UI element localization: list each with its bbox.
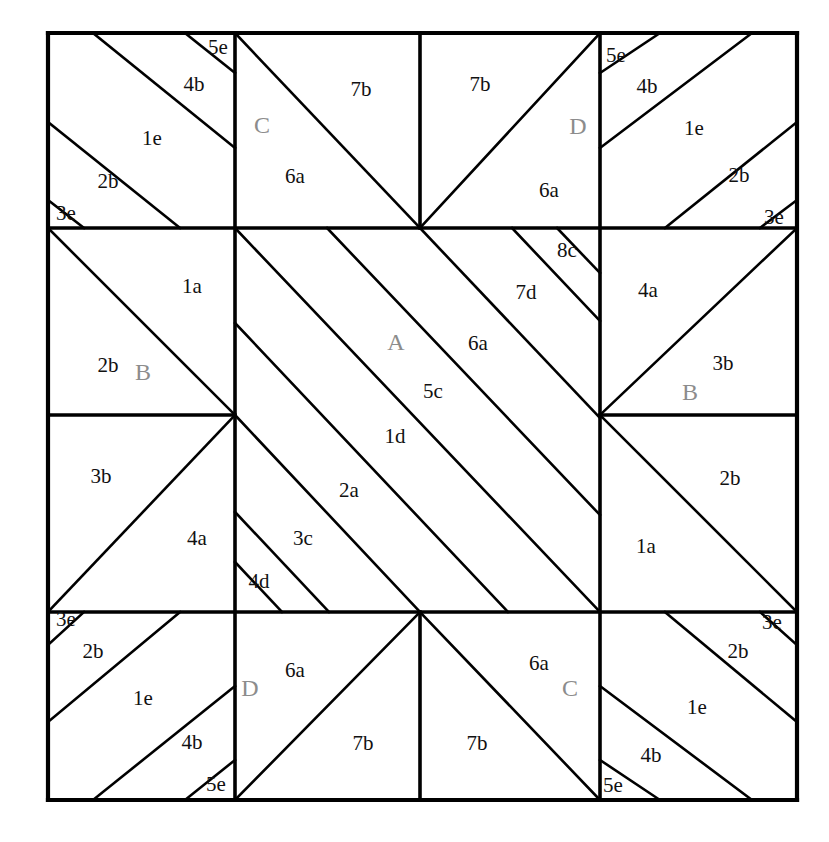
patch-label-tl-2b: 2b — [98, 169, 119, 193]
patch-label-br-5e: 5e — [603, 773, 623, 797]
patch-label-bl-4b: 4b — [182, 730, 203, 754]
patch-label-tr-3e: 3e — [764, 205, 784, 229]
patch-label-br2-6a: 6a — [529, 651, 550, 675]
patch-label-ml-4a: 4a — [187, 526, 208, 550]
patch-label-bl-1e: 1e — [133, 686, 153, 710]
block-label-block-b-right: B — [682, 379, 698, 405]
patch-label-tr2-7b: 7b — [470, 72, 491, 96]
patch-label-ml-3b: 3b — [91, 464, 112, 488]
patch-label-c-4d: 4d — [249, 569, 271, 593]
patch-label-mr-2b: 2b — [720, 466, 741, 490]
patch-label-br-3e: 3e — [762, 610, 782, 634]
patch-label-tr-2b: 2b — [729, 163, 750, 187]
patch-label-c-5c: 5c — [423, 379, 443, 403]
quilt-diagram: 5e4b1e2b3e7b6a7b6a5e4b1e2b3e1a2b3b4a8c7d… — [0, 0, 829, 842]
block-label-block-d-bottom: D — [241, 675, 258, 701]
patch-label-tr-5e: 5e — [606, 43, 626, 67]
block-label-block-c-bottom: C — [562, 675, 578, 701]
patch-label-tr2-6a: 6a — [539, 178, 560, 202]
patch-label-c-2a: 2a — [339, 478, 360, 502]
patch-label-tl-4b: 4b — [184, 72, 205, 96]
block-label-block-b-left: B — [135, 359, 151, 385]
patch-label-tc-7b: 7b — [351, 77, 372, 101]
patch-label-tr-1e: 1e — [684, 116, 704, 140]
patch-label-br-4b: 4b — [641, 743, 662, 767]
block-label-block-d-top: D — [569, 113, 586, 139]
block-label-block-a-center: A — [387, 329, 405, 355]
patch-label-tc-6a: 6a — [285, 164, 306, 188]
patch-label-bc-7b: 7b — [353, 731, 374, 755]
patch-label-ml-2b: 2b — [98, 353, 119, 377]
patch-label-tl-1e: 1e — [142, 126, 162, 150]
patch-label-mr-4a: 4a — [638, 278, 659, 302]
patch-label-br2-7b: 7b — [467, 731, 488, 755]
patch-label-c-1d: 1d — [385, 424, 407, 448]
patch-label-br-1e: 1e — [687, 695, 707, 719]
patch-label-tr-4b: 4b — [637, 74, 658, 98]
patch-label-c-6a: 6a — [468, 331, 489, 355]
patch-label-tl-3e: 3e — [56, 201, 76, 225]
patch-label-bc-6a: 6a — [285, 658, 306, 682]
patch-label-bl-2b: 2b — [83, 639, 104, 663]
patch-label-mr-3b: 3b — [713, 351, 734, 375]
patch-label-ml-1a: 1a — [182, 274, 203, 298]
patch-label-bl-3e: 3e — [56, 607, 76, 631]
quilt-svg-canvas: 5e4b1e2b3e7b6a7b6a5e4b1e2b3e1a2b3b4a8c7d… — [0, 0, 829, 842]
patch-label-c-7d: 7d — [516, 280, 538, 304]
patch-label-c-3c: 3c — [293, 526, 313, 550]
patch-label-br-2b: 2b — [728, 639, 749, 663]
patch-label-mr-1a: 1a — [636, 534, 657, 558]
patch-label-bl-5e: 5e — [206, 772, 226, 796]
patch-label-tl-5e: 5e — [208, 35, 228, 59]
patch-label-c-8c: 8c — [557, 238, 577, 262]
block-label-block-c-top: C — [254, 112, 270, 138]
